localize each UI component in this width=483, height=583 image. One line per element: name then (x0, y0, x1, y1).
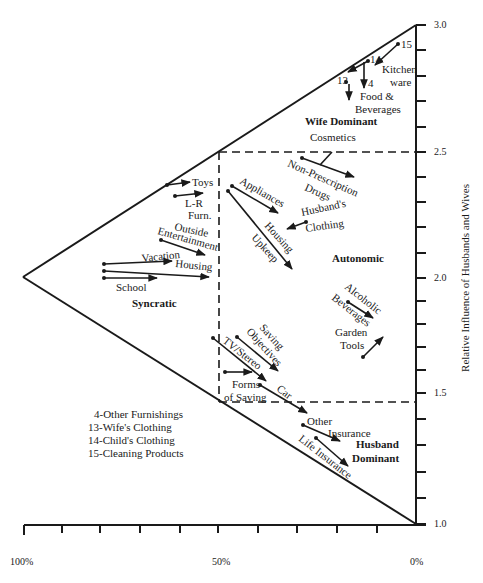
label-forms-2: of Saving (224, 391, 267, 403)
triangle-chart: 3.0 2.5 2.0 1.5 1.0 Relative Influence o… (0, 0, 483, 583)
y-tick-1.5: 1.5 (434, 387, 447, 398)
y-axis-label: Relative Influence of Husbands and Wives (459, 184, 471, 372)
region-husband-dominant-2: Dominant (352, 452, 399, 464)
arrow-housing (104, 271, 209, 277)
label-lrfurn-1: L-R (185, 197, 203, 209)
y-axis (416, 25, 426, 524)
label-toys: Toys (192, 176, 213, 188)
label-13: 13 (337, 74, 349, 86)
y-tick-2.0: 2.0 (434, 272, 447, 283)
label-15: 15 (401, 38, 413, 50)
x-tick-0: 0% (410, 556, 423, 567)
y-tick-1.0: 1.0 (434, 518, 447, 529)
label-life-insurance: Life Insurance (297, 432, 355, 481)
label-cosmetics: Cosmetics (310, 131, 356, 143)
region-wife-dominant: Wife Dominant (305, 115, 378, 127)
label-car: Car (275, 382, 295, 401)
label-insurance: Insurance (328, 427, 371, 439)
x-tick-100: 100% (10, 556, 33, 567)
label-forms-1: Forms (232, 378, 260, 390)
label-food-1: Food & (360, 90, 394, 102)
label-husband-clothing-2: Clothing (305, 217, 345, 234)
label-lrfurn-2: Furn. (188, 209, 212, 221)
region-syncratic: Syncratic (132, 297, 177, 309)
y-tick-3.0: 3.0 (434, 19, 447, 30)
label-4: 4 (368, 77, 374, 89)
arrow-cosmetics (320, 152, 332, 165)
label-garden-2: Tools (340, 339, 364, 351)
arrow-garden (363, 337, 383, 357)
y-tick-2.5: 2.5 (434, 146, 447, 157)
legend-item: 13-Wife's Clothing (88, 421, 184, 434)
label-food-2: Beverages (355, 103, 401, 115)
y-tick-labels: 3.0 2.5 2.0 1.5 1.0 (434, 19, 447, 529)
region-husband-dominant-1: Husband (356, 438, 399, 450)
label-housing: Housing (175, 257, 214, 273)
label-kitchen-2: ware (390, 76, 411, 88)
x-axis (24, 525, 426, 535)
label-school: School (116, 281, 147, 293)
arrow-lrfurn (175, 193, 203, 196)
legend-item: 4-Other Furnishings (88, 408, 184, 421)
region-autonomic: Autonomic (332, 252, 384, 264)
arrow-husband-clothing (287, 222, 306, 229)
label-kitchen-1: Kitchen (382, 63, 417, 75)
label-garden-1: Garden (335, 326, 368, 338)
label-14: 14 (370, 53, 382, 65)
legend-item: 15-Cleaning Products (88, 447, 184, 460)
x-tick-50: 50% (212, 556, 230, 567)
legend-item: 14-Child's Clothing (88, 434, 184, 447)
legend: 4-Other Furnishings 13-Wife's Clothing 1… (88, 408, 184, 460)
label-other: Other (307, 415, 332, 427)
x-tick-labels: 100% 50% 0% (10, 556, 423, 567)
